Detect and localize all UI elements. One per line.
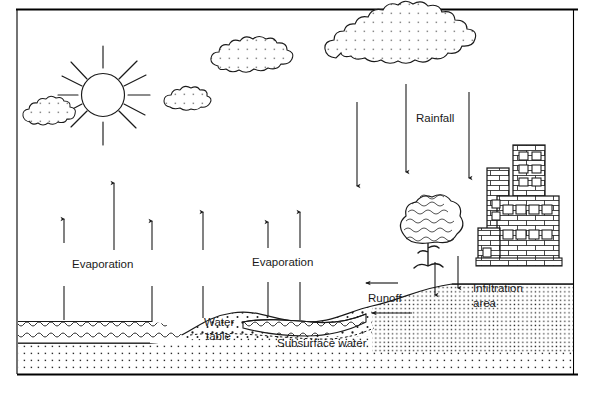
- infiltration-label-line2: area: [473, 297, 497, 309]
- evaporation-label-left: Evaporation: [72, 258, 133, 270]
- building-plinth: [476, 258, 562, 266]
- lake: [18, 322, 190, 344]
- city-buildings: [476, 145, 562, 266]
- sun: [58, 46, 150, 145]
- cloud-small-left: [23, 96, 76, 125]
- evaporation-label-right: Evaporation: [252, 256, 313, 268]
- water-table-label-line1: Water: [204, 316, 234, 328]
- evaporation-arrows-left: [64, 183, 152, 322]
- infiltration-zone: [372, 284, 573, 352]
- water-table-label-line2: table: [206, 330, 231, 342]
- cloud-medium: [211, 37, 293, 73]
- tree: [400, 195, 462, 268]
- rainfall-arrows: [357, 84, 469, 186]
- figure-canvas: Rainfall Evaporation Evaporation: [0, 0, 595, 393]
- subsurface-water-label: Subsurface water: [277, 337, 367, 349]
- runoff-label: Runoff: [368, 292, 402, 304]
- cloud-small-mid: [164, 86, 211, 110]
- rainfall-label: Rainfall: [416, 112, 454, 124]
- hydrological-cycle-diagram: Rainfall Evaporation Evaporation: [0, 0, 595, 393]
